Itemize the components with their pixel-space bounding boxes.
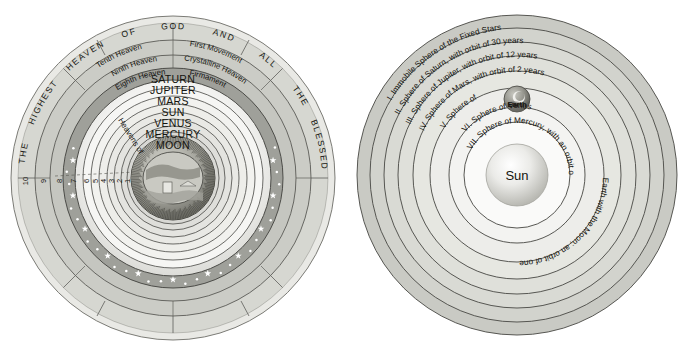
star-dot [276,171,279,174]
star-dot [125,270,128,273]
star-dot [274,146,277,149]
star-dot [72,147,75,150]
star-dot [113,266,116,269]
figure-stage: 10 9 8 7 6 5 4 3 2 1 [0,0,689,350]
star-dot [255,239,258,242]
copernican-svg: Sun Earth I. Immobile Sphere of the Fixe… [345,0,689,350]
star-dot [66,171,69,174]
ptolemaic-diagram: 10 9 8 7 6 5 4 3 2 1 [0,0,345,350]
star-dot [147,280,150,283]
star-dot [229,264,232,267]
sun-label: Sun [505,168,528,183]
sun-body: Sun [486,144,548,206]
star-dot [70,207,73,210]
star-dot [271,207,274,210]
star-dot [249,250,252,253]
svg-text:10: 10 [21,177,30,185]
star-dot [86,240,89,243]
planet-label-moon: MOON [156,139,190,151]
star-dot [96,248,99,251]
star-dot [278,183,281,186]
star-dot [269,219,272,222]
copernican-diagram: Sun Earth I. Immobile Sphere of the Fixe… [345,0,689,350]
svg-text:9: 9 [39,179,48,183]
svg-text:6: 6 [82,179,91,183]
star-dot [184,282,187,285]
star-dot [160,280,163,283]
svg-text:8: 8 [55,179,64,183]
star-dot [68,183,71,186]
star-dot [196,278,199,281]
star-dot [220,272,223,275]
outer-word-god: GOD [161,21,186,32]
svg-text:7: 7 [69,179,78,183]
star-dot [76,218,79,221]
ptolemaic-svg: 10 9 8 7 6 5 4 3 2 1 [0,0,345,350]
